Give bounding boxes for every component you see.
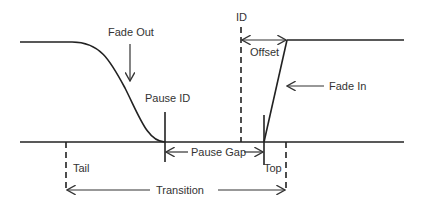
- fade-in-label: Fade In: [329, 80, 366, 92]
- pause-gap-label: Pause Gap: [191, 146, 246, 158]
- fade-out-label: Fade Out: [108, 26, 154, 38]
- fade-out-curve: [20, 42, 165, 142]
- transition-label: Transition: [156, 184, 204, 196]
- transition-diagram: ID Offset Fade Out Fade In Pause ID Paus…: [0, 0, 422, 210]
- id-label: ID: [236, 11, 247, 23]
- top-label: Top: [264, 162, 282, 174]
- pause-id-label: Pause ID: [145, 92, 190, 104]
- offset-label: Offset: [250, 46, 279, 58]
- tail-label: Tail: [73, 162, 90, 174]
